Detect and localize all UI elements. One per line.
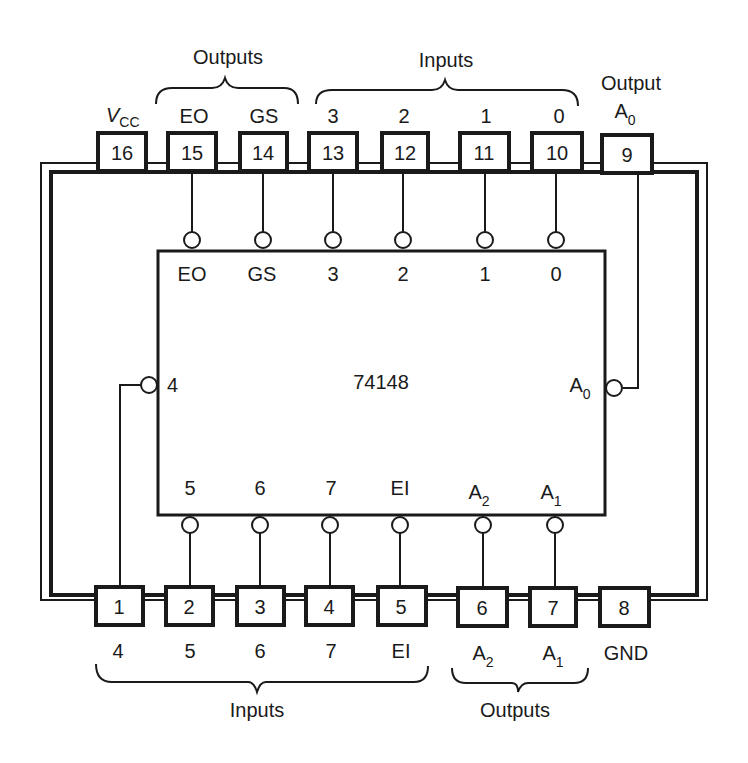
int-label-eo: EO — [178, 263, 207, 285]
pin-number: 3 — [254, 596, 265, 618]
pin-15: 15 — [168, 133, 216, 171]
bottom-inputs-group-label: Inputs — [230, 699, 284, 721]
pin-number: 10 — [546, 142, 568, 164]
pin-number: 2 — [183, 596, 194, 618]
int-label-ei: EI — [391, 477, 410, 499]
pin-number: 6 — [476, 597, 487, 619]
ext-label-5: 5 — [184, 640, 195, 662]
int-label-7: 7 — [325, 477, 336, 499]
pin-3: 3 — [237, 587, 284, 625]
pin-1: 1 — [96, 587, 143, 625]
int-label-1: 1 — [479, 263, 490, 285]
pin-14: 14 — [240, 133, 287, 171]
pin-number: 15 — [181, 142, 203, 164]
pin-12: 12 — [382, 133, 428, 171]
int-label-3: 3 — [327, 263, 338, 285]
ext-label-vcc: VCC — [106, 104, 140, 130]
pin-5: 5 — [378, 587, 426, 625]
pin-number: 11 — [474, 142, 495, 164]
ext-label-3: 3 — [327, 105, 338, 127]
ext-label-ei: EI — [392, 640, 411, 662]
pin-16: 16 — [98, 133, 146, 171]
pin-number: 12 — [394, 142, 416, 164]
ext-label-eo: EO — [180, 105, 209, 127]
pin-number: 13 — [322, 142, 344, 164]
int-label-0: 0 — [550, 263, 561, 285]
int-label-4: 4 — [167, 374, 178, 396]
ext-group-output: Output — [601, 72, 661, 94]
int-label-2: 2 — [397, 263, 408, 285]
int-label-5: 5 — [184, 477, 195, 499]
ext-label-7: 7 — [325, 640, 336, 662]
top-braces — [156, 78, 578, 106]
ext-label-a0: A0 — [614, 100, 635, 128]
pin-7: 7 — [530, 588, 576, 626]
top-outputs-group-label: Outputs — [193, 46, 263, 68]
int-label-gs: GS — [248, 263, 277, 285]
pin-number: 8 — [618, 597, 629, 619]
pin-number: 14 — [252, 142, 274, 164]
ext-label-6: 6 — [254, 640, 265, 662]
pin-8: 8 — [600, 588, 649, 626]
bottom-outputs-group-label: Outputs — [480, 699, 550, 721]
int-label-6: 6 — [254, 477, 265, 499]
ext-label-a1: A1 — [542, 642, 563, 670]
pin-10: 10 — [532, 133, 582, 171]
ext-label-4: 4 — [112, 640, 123, 662]
pin-4: 4 — [306, 587, 353, 625]
pin-number: 5 — [395, 596, 406, 618]
ext-label-gs: GS — [250, 105, 279, 127]
pin-6: 6 — [458, 588, 507, 626]
pin-9: 9 — [602, 135, 652, 173]
pin-11: 11 — [460, 133, 509, 171]
top-inputs-group-label: Inputs — [419, 49, 473, 71]
pin-number: 9 — [621, 144, 632, 166]
pin-2: 2 — [166, 587, 213, 625]
external-bottom-labels: 4 5 6 7 EI A2 A1 GND — [112, 640, 648, 670]
ext-label-1: 1 — [480, 105, 491, 127]
top-pins: 16 15 14 13 12 11 10 9 — [98, 133, 652, 173]
chip-name: 74148 — [353, 371, 409, 393]
pin-number: 7 — [547, 597, 558, 619]
pin-number: 16 — [111, 142, 133, 164]
pin-number: 4 — [323, 596, 334, 618]
pin-13: 13 — [309, 133, 357, 171]
ext-label-0: 0 — [553, 105, 564, 127]
ext-label-2: 2 — [398, 105, 409, 127]
ext-label-a2: A2 — [472, 642, 493, 670]
bottom-braces — [96, 664, 588, 692]
pin-number: 1 — [113, 596, 124, 618]
ext-label-gnd: GND — [604, 642, 648, 664]
ic-pinout-diagram: 16 15 14 13 12 11 10 9 — [0, 0, 748, 763]
